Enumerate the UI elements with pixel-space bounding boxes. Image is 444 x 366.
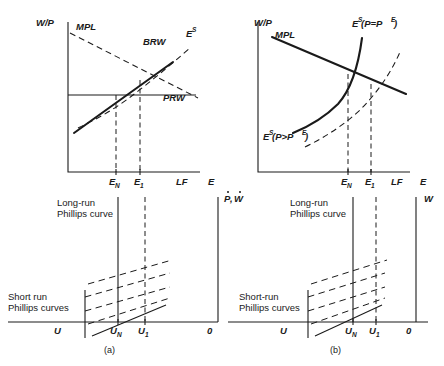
panel-b-top-yaxis-label: W/P: [254, 17, 273, 28]
curve-short-run-phillips-b-2: [308, 273, 385, 297]
label-short-run-a-line2: Phillips curves: [8, 302, 69, 313]
panel-b-bottom-xaxis-label: U: [280, 325, 288, 336]
xtick-label-u1-a: U 1: [138, 325, 149, 338]
svg-text:N: N: [115, 182, 120, 189]
panel-a-top-xaxis-label: E: [208, 176, 215, 187]
curve-mpl-a: [70, 33, 198, 98]
panel-b-bottom-yaxis-label: P , W: [224, 191, 244, 204]
w-dot-accent: [239, 191, 241, 193]
xtick-label-un-b: U N: [345, 325, 357, 338]
label-es-expected-b: E S (P=P E ): [352, 16, 397, 29]
xtick-label-u1-b: U 1: [369, 325, 380, 338]
svg-text:1: 1: [376, 331, 380, 338]
curve-short-run-phillips-a-2: [85, 273, 170, 297]
label-brw-a: BRW: [143, 36, 167, 47]
xtick-label-un-a: U N: [110, 325, 122, 338]
svg-text:(P=P: (P=P: [361, 18, 383, 29]
curve-es-a: [78, 48, 190, 128]
xtick-label-e1-b: E 1: [365, 176, 375, 189]
xtick-label-lf-b: LF: [391, 176, 403, 187]
svg-text:1: 1: [371, 182, 375, 189]
xtick-label-lf-a: LF: [176, 176, 188, 187]
label-long-run-a-line2: Phillips curve: [57, 208, 113, 219]
label-long-run-a-line1: Long-run: [57, 197, 95, 208]
label-long-run-b-line2: Phillips curve: [290, 208, 346, 219]
svg-text:W: W: [234, 193, 244, 204]
figure-canvas: W/P MPL BRW PRW E S E N E 1 LF E: [0, 0, 444, 366]
p-dot-accent: [227, 191, 229, 193]
label-es-a: E S: [186, 26, 197, 39]
curve-short-run-phillips-b-5: [311, 298, 385, 324]
curve-short-run-phillips-a-1: [85, 287, 170, 311]
panel-tag-a: (a): [104, 345, 115, 355]
curve-short-run-phillips-a-3: [88, 260, 172, 284]
curve-short-run-phillips-a-4: [92, 305, 166, 336]
curve-short-run-phillips-b-3: [311, 260, 387, 284]
svg-text:1: 1: [140, 182, 144, 189]
svg-text:): ): [304, 131, 308, 142]
panel-a-bottom: Long-run Phillips curve Short run Philli…: [8, 197, 218, 355]
svg-text:S: S: [192, 26, 197, 33]
label-es-surprise-b: E S (P>P E ): [263, 129, 308, 142]
panel-a-top-yaxis-label: W/P: [36, 17, 55, 28]
label-short-run-b-line1: Short-run: [239, 291, 279, 302]
label-mpl-a: MPL: [76, 21, 96, 32]
svg-text:1: 1: [145, 331, 149, 338]
svg-text:N: N: [117, 331, 122, 338]
label-short-run-b-line2: Phillips curves: [239, 302, 300, 313]
svg-text:N: N: [347, 182, 352, 189]
xtick-label-en-a: E N: [109, 176, 120, 189]
panel-a-bottom-xaxis-label: U: [54, 325, 62, 336]
panel-b-top: W/P MPL E S (P=P E ) E S (P>P E ) E N: [254, 16, 427, 189]
panel-b-bottom-origin-label: 0: [406, 325, 412, 336]
svg-text:(P>P: (P>P: [272, 131, 294, 142]
label-mpl-b: MPL: [275, 29, 295, 40]
svg-text:,: ,: [229, 193, 233, 204]
panel-a-top: W/P MPL BRW PRW E S E N E 1 LF E: [36, 17, 215, 189]
xtick-label-e1-a: E 1: [134, 176, 144, 189]
curve-short-run-phillips-b-1: [308, 287, 385, 311]
panel-b-bottom-right-axis-label: W: [424, 193, 434, 204]
panel-a-bottom-origin-label: 0: [207, 325, 213, 336]
panel-b-top-xaxis-label: E: [420, 176, 427, 187]
panel-b-bottom: P , W W Long-run Phillips curve Short-ru…: [224, 191, 434, 355]
svg-text:N: N: [352, 331, 357, 338]
curve-es-surprise-b: [305, 52, 400, 147]
curve-es-expected-b: [293, 38, 362, 133]
panel-b-top-axes: [258, 22, 410, 172]
svg-text:): ): [393, 18, 397, 29]
label-long-run-b-line1: Long-run: [290, 197, 328, 208]
label-prw-a: PRW: [163, 92, 186, 103]
xtick-label-en-b: E N: [341, 176, 352, 189]
label-short-run-a-line1: Short run: [8, 291, 47, 302]
panel-tag-b: (b): [330, 345, 341, 355]
economics-figure: W/P MPL BRW PRW E S E N E 1 LF E: [0, 0, 444, 366]
curve-mpl-b: [272, 37, 406, 94]
